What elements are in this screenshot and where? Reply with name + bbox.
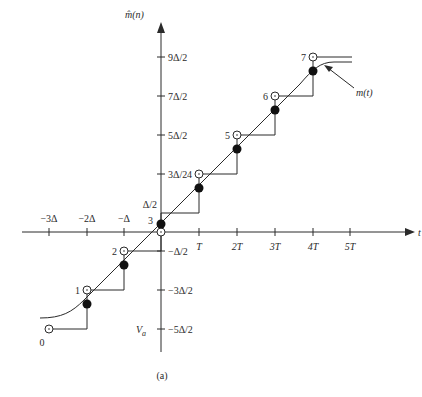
x-axis-label: t xyxy=(418,227,421,238)
curve-label: m(t) xyxy=(356,87,373,99)
circle-center xyxy=(160,231,162,233)
filled-sample-dot-icon xyxy=(195,184,204,193)
y-tick-label: −Δ/2 xyxy=(168,246,188,257)
x-tick-label: 3T xyxy=(269,241,282,252)
point-index-label: 0 xyxy=(40,337,45,348)
circle-center xyxy=(86,289,88,291)
y-axis-label: m̂(n) xyxy=(125,9,145,21)
filled-sample-dot-icon xyxy=(157,220,166,229)
point-index-label: 1 xyxy=(75,285,80,296)
y-tick-label: 9Δ/2 xyxy=(168,52,187,63)
y-tick-label: −3Δ/2 xyxy=(168,285,193,296)
point-index-label: 7 xyxy=(301,52,306,63)
staircase-signal xyxy=(52,57,352,329)
circle-center xyxy=(48,328,50,330)
circle-center xyxy=(236,134,238,136)
point-index-label: 6 xyxy=(263,91,268,102)
y-tick-label: 7Δ/2 xyxy=(168,91,187,102)
circle-center xyxy=(274,95,276,97)
circle-center xyxy=(198,173,200,175)
y-tick-label: −5Δ/2 xyxy=(168,324,193,335)
figure-caption: (a) xyxy=(150,370,174,381)
filled-sample-dot-icon xyxy=(271,106,280,115)
x-tick-label: −3Δ xyxy=(40,213,58,224)
x-tick-label: 2T xyxy=(232,241,244,252)
sample-dots xyxy=(83,67,318,309)
circle-center xyxy=(123,250,125,252)
y-tick-label-left: Δ/2 xyxy=(143,199,157,210)
x-tick-label: 4T xyxy=(308,241,320,252)
point-index-label: 2 xyxy=(112,246,117,257)
x-axis-arrow-icon xyxy=(405,228,415,236)
filled-sample-dot-icon xyxy=(83,300,92,309)
va-label: Va xyxy=(136,324,146,338)
y-axis-arrow-icon xyxy=(157,22,165,33)
y-tick-label: 3Δ/2 xyxy=(168,169,187,180)
delta-modulation-diagram: −3Δ−2Δ−ΔT2T3T4T5T9Δ/27Δ/25Δ/23Δ/2−Δ/2−3Δ… xyxy=(0,0,422,397)
curve-label-pointer xyxy=(328,68,354,88)
x-tick-label: −2Δ xyxy=(78,213,96,224)
circle-center xyxy=(312,56,314,58)
point-index-label: 3 xyxy=(148,215,153,226)
x-tick-label: T xyxy=(196,241,203,252)
filled-sample-dot-icon xyxy=(309,67,318,76)
point-index-label: 4 xyxy=(187,169,192,180)
x-tick-label: −Δ xyxy=(118,213,131,224)
filled-sample-dot-icon xyxy=(120,261,129,270)
filled-sample-dot-icon xyxy=(233,145,242,154)
y-tick-label: 5Δ/2 xyxy=(168,130,187,141)
point-index-label: 5 xyxy=(225,130,230,141)
x-tick-label: 5T xyxy=(345,241,357,252)
